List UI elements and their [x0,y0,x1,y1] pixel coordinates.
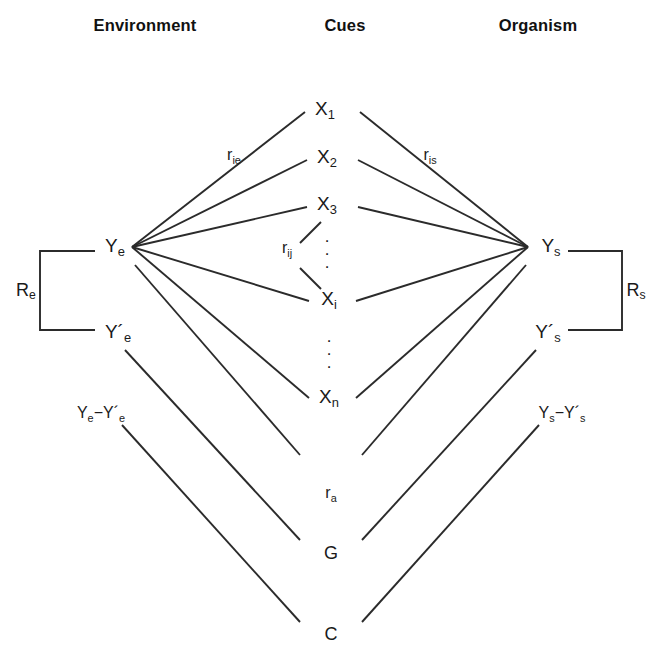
cue-ellipsis-lower: · · · [326,334,332,373]
node-ys-prime: Y´s [535,321,560,345]
label-c: C [325,624,338,645]
label-rs: Rs [626,280,645,302]
cue-node-x2: X2 [317,146,337,170]
cue-node-xn: Xn [319,386,339,410]
line-ye-ra [135,265,300,455]
lower-left-lines [122,265,300,622]
cue-node-x1: X1 [315,98,335,122]
bracket-re [40,251,95,330]
label-r-is: ris [423,146,436,165]
line-residual-c [122,425,300,622]
line-xn-ys [356,247,528,398]
line-rij-upper [300,222,321,243]
line-ys-ra [362,265,526,455]
lens-model-diagram: Environment Cues Organism [0,0,657,672]
bracket-rs [568,251,622,330]
line-yeprime-g [125,350,300,540]
line-ysprime-g [362,350,536,540]
label-re: Re [16,280,36,302]
label-r-ij: rij [282,239,292,258]
cue-ellipsis-upper: · · · [324,234,330,273]
cue-node-x3: X3 [317,193,337,217]
label-g: G [324,543,338,564]
cue-node-xi: Xi [321,288,337,312]
cue-intercorrelation-ticks [300,222,321,289]
line-x2-ys [358,160,528,247]
cue-utilization-lines [356,112,528,398]
label-environment-residual: Ye−Y´e [77,404,125,423]
line-rij-lower [300,268,321,289]
node-ys: Ys [541,235,560,259]
lower-right-lines [362,265,539,622]
line-ye-x2 [132,160,307,247]
line-ye-xn [132,247,309,398]
label-organism-residual: Ys−Y´s [539,404,586,423]
label-r-ie: rie [227,146,241,165]
node-ye: Ye [105,235,125,259]
line-residual-c-right [362,425,539,622]
node-ye-prime: Y´e [105,321,131,345]
label-r-a: ra [325,484,336,503]
